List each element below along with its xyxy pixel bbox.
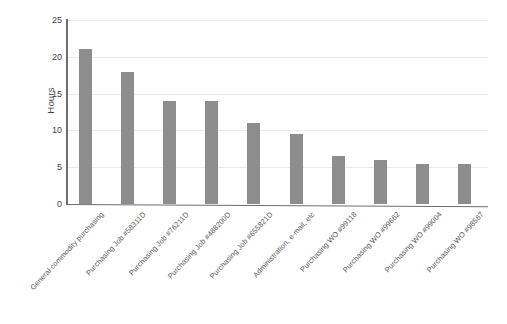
y-axis-tick-label: 15 [40, 89, 62, 99]
bar [416, 164, 429, 204]
bar-chart-figure: Hours 0510152025 General commodity purch… [0, 0, 507, 324]
y-axis-tick-label: 10 [40, 125, 62, 135]
y-axis-tick-label: 0 [40, 199, 62, 209]
y-axis-tick-label: 20 [40, 52, 62, 62]
bar [79, 49, 92, 204]
y-axis-line [66, 19, 68, 205]
y-axis-tick-label: 25 [40, 15, 62, 25]
y-axis-tick-label: 5 [40, 162, 62, 172]
x-axis-category-labels: General commodity purchasingPurchasing J… [66, 206, 488, 324]
x-axis-category-label: General commodity purchasing [28, 210, 105, 292]
plot-area [66, 20, 488, 204]
bar [374, 160, 387, 204]
bar [205, 101, 218, 204]
y-axis-tick-labels: 0510152025 [38, 20, 62, 204]
bar [163, 101, 176, 204]
bar [290, 134, 303, 204]
bar [247, 123, 260, 204]
gridline [66, 57, 488, 58]
bar [332, 156, 345, 204]
bar [121, 72, 134, 204]
gridline [66, 20, 488, 21]
bar [458, 164, 471, 204]
